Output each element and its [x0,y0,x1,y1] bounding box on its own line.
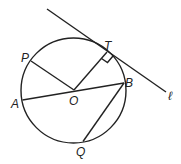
label-l: ℓ [168,89,173,103]
segment-BQ [83,83,124,142]
label-P: P [21,51,29,65]
label-T: T [104,39,113,53]
label-A: A [10,97,19,111]
segment-OP [31,61,74,90]
label-O: O [69,94,78,108]
segment-OT [74,52,107,90]
geometry-diagram: P T B A O Q ℓ [0,0,181,164]
label-Q: Q [76,145,85,159]
label-B: B [125,76,133,90]
